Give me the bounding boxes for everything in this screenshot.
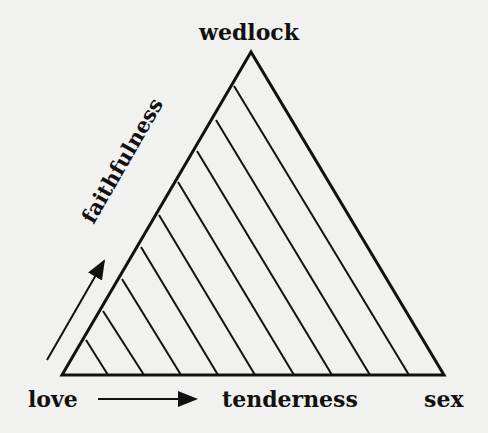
label-wedlock: wedlock	[199, 21, 299, 43]
faithfulness-arrow	[47, 261, 104, 360]
label-tenderness: tenderness	[222, 388, 358, 410]
label-sex: sex	[424, 388, 464, 410]
label-love: love	[28, 388, 78, 410]
triangle-outline	[62, 52, 444, 375]
triangle-diagram	[0, 0, 488, 433]
